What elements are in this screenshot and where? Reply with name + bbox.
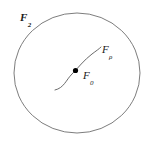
label-center-leaf: F0 (83, 66, 93, 85)
label-outer-subscript: 2 (28, 21, 32, 29)
label-center-subscript: 0 (90, 79, 94, 87)
label-rho-leaf: Fρ (102, 40, 112, 59)
label-center-base: F (83, 69, 90, 81)
center-point-dot (73, 68, 78, 73)
label-outer-region: F2 (20, 8, 31, 27)
label-rho-base: F (102, 43, 109, 55)
leaf-curve-path (55, 47, 101, 90)
label-outer-base: F (20, 11, 27, 23)
outer-ellipse-boundary (14, 13, 140, 133)
label-rho-subscript: ρ (109, 53, 112, 61)
figure-canvas: F2 F0 Fρ (0, 0, 149, 146)
